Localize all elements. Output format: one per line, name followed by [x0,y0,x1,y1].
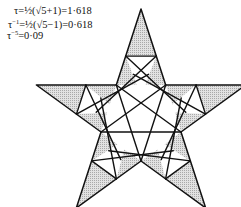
pentagram-diagram [0,0,241,207]
star-shape [36,9,241,207]
figure-root: τ=½(√5+1)=1·618 τ−1=½(√5−1)=0·618 τ−5=0·… [0,0,241,207]
